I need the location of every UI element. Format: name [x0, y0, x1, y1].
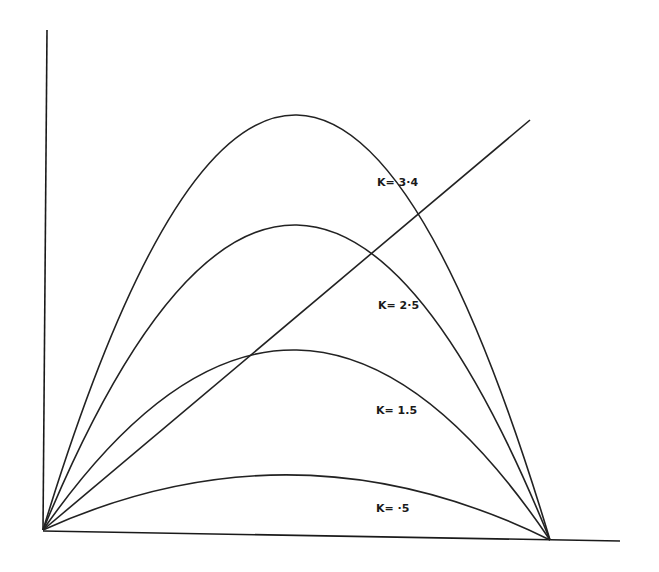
curve-k-3-4 — [43, 115, 550, 540]
label-k-0-5: K= ·5 — [376, 502, 409, 515]
chart: K= 3·4 K= 2·5 K= 1.5 K= ·5 — [0, 0, 659, 572]
label-k-1-5: K= 1.5 — [376, 404, 417, 417]
curve-k-1-5 — [43, 350, 550, 540]
curve-k-0-5 — [43, 475, 550, 540]
label-k-2-5: K= 2·5 — [378, 299, 419, 312]
y-axis — [43, 30, 47, 530]
curve-k-2-5 — [43, 225, 550, 540]
label-k-3-4: K= 3·4 — [377, 176, 418, 189]
